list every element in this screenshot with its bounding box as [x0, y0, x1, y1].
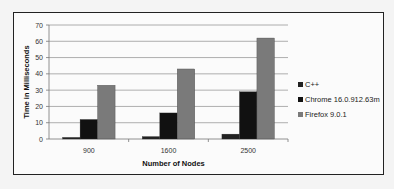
bar: [80, 119, 98, 139]
y-tick-label: 30: [35, 87, 43, 94]
legend-label: Firefox 9.0.1: [305, 110, 347, 119]
legend-item: Firefox 9.0.1: [298, 107, 380, 122]
y-tick-label: 10: [35, 119, 43, 126]
legend-item: Chrome 16.0.912.63m: [298, 92, 380, 107]
legend-label: Chrome 16.0.912.63m: [305, 95, 380, 104]
bar: [142, 137, 160, 139]
bar: [63, 137, 80, 139]
x-axis-title: Number of Nodes: [142, 159, 205, 168]
x-tick-label: 2500: [240, 147, 256, 154]
bar: [239, 92, 257, 139]
chart-legend: C++Chrome 16.0.912.63mFirefox 9.0.1: [298, 77, 380, 122]
bar: [257, 38, 275, 139]
bar: [98, 85, 116, 139]
y-axis-title: Time in Milliseconds: [22, 45, 31, 118]
y-tick-label: 40: [35, 70, 43, 77]
y-tick-label: 70: [35, 22, 43, 29]
legend-swatch-icon: [298, 97, 303, 102]
y-tick-label: 60: [35, 38, 43, 45]
x-tick-label: 1600: [161, 147, 177, 154]
y-tick-label: 20: [35, 103, 43, 110]
y-tick-label: 0: [39, 136, 43, 143]
x-tick-label: 900: [83, 147, 95, 154]
bar: [160, 113, 178, 139]
y-tick-label: 50: [35, 54, 43, 61]
bar: [222, 134, 240, 139]
legend-swatch-icon: [298, 82, 303, 87]
bar: [177, 69, 195, 139]
legend-item: C++: [298, 77, 380, 92]
legend-swatch-icon: [298, 112, 303, 117]
legend-label: C++: [305, 80, 319, 89]
